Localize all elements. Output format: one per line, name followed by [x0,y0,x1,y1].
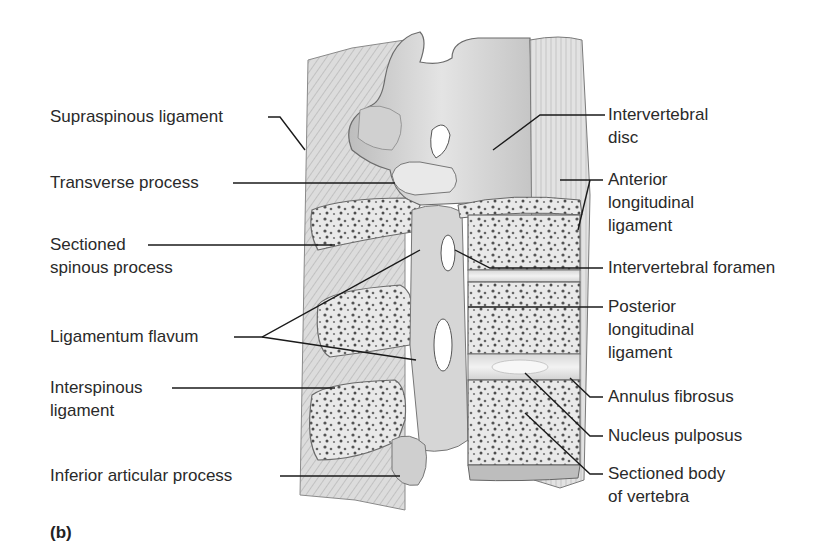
label-ligamentum-flavum: Ligamentum flavum [50,327,198,347]
label-anterior-line2: longitudinal [608,193,694,213]
label-annulus-fibrosus: Annulus fibrosus [608,387,734,407]
label-inferior-articular-process: Inferior articular process [50,466,232,486]
label-body-line1: Sectioned body [608,464,725,484]
label-transverse-process: Transverse process [50,173,199,193]
label-posterior-line2: longitudinal [608,320,694,340]
label-anterior-line1: Anterior [608,170,668,190]
label-sectioned-spinous-line1: Sectioned [50,235,126,255]
label-sectioned-spinous-line2: spinous process [50,258,173,278]
label-interspinous-line2: ligament [50,401,114,421]
label-nucleus-pulposus: Nucleus pulposus [608,426,742,446]
lamina-column [410,205,468,451]
panel-tag: (b) [50,523,72,543]
leader-supraspinous [268,117,305,150]
label-iv-foramen: Intervertebral foramen [608,258,775,278]
label-interspinous-line1: Interspinous [50,378,143,398]
label-supraspinous-ligament: Supraspinous ligament [50,107,223,127]
vertebral-column-diagram: Supraspinous ligament Transverse process… [0,0,829,555]
label-anterior-line3: ligament [608,216,672,236]
label-posterior-line3: ligament [608,343,672,363]
vertebral-body-column [458,197,582,481]
label-posterior-line1: Posterior [608,297,676,317]
label-iv-disc-line2: disc [608,128,638,148]
label-iv-disc-line1: Intervertebral [608,105,708,125]
label-body-line2: of vertebra [608,487,689,507]
inferior-articular-process [392,436,426,485]
